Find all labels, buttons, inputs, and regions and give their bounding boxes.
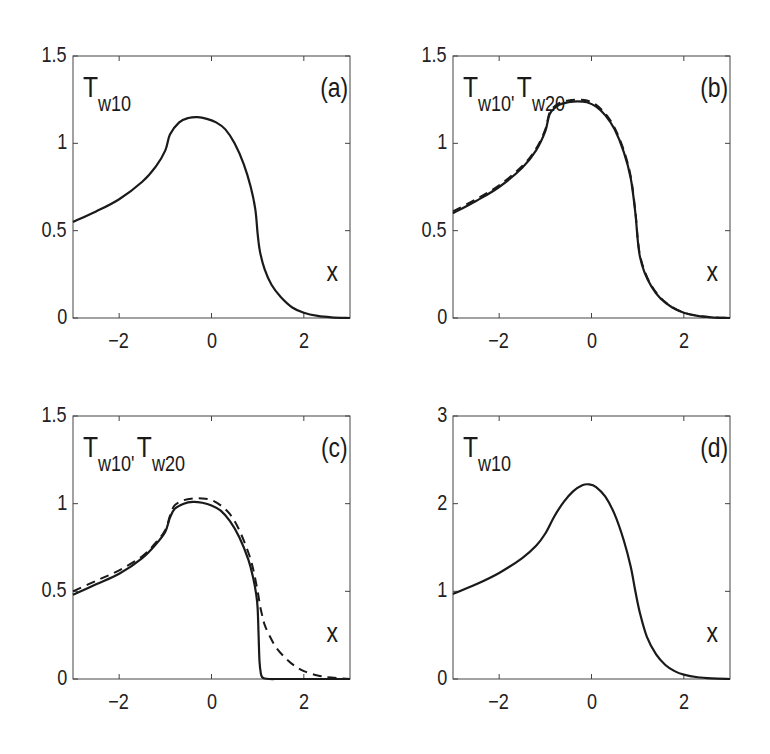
x-tick-label: 2 [679,691,689,713]
y-tick-label: 3 [437,404,447,426]
series-line-t-w10-solid [73,117,350,318]
panel-label: (c) [321,434,348,462]
x-axis-label: x [327,258,338,286]
panel-label: (d) [700,434,728,462]
x-tick-label: 2 [679,330,689,352]
y-tick-label: 0 [437,667,447,689]
x-tick-label: 0 [207,691,217,713]
y-axis-label: Tw10' Tw20 [83,432,185,462]
series-line-t-w20-dashed [453,100,730,318]
panel-a: (a) x −20200.511.5Tw10 [73,56,350,318]
y-tick-label: 1 [57,131,67,153]
y-tick-label: 0.5 [422,219,447,241]
panel-d: (d) x −2020123Tw10 [453,416,730,679]
y-tick-label: 1 [57,492,67,514]
x-tick-label: −2 [108,691,129,713]
panel-b: (b) x −20200.511.5Tw10' Tw20 [453,56,730,318]
y-axis-label: Tw10 [463,432,511,462]
y-tick-label: 0 [437,306,447,328]
x-tick-label: 0 [207,330,217,352]
x-axis-label: x [707,258,718,286]
x-axis-label: x [327,619,338,647]
y-tick-label: 1.5 [422,44,447,66]
y-tick-label: 0 [57,667,67,689]
y-tick-label: 2 [437,492,447,514]
panel-c: (c) x −20200.511.5Tw10' Tw20 [73,416,350,679]
series-line-t-w10-solid [453,101,730,318]
series-line-t-w20-dashed [73,498,350,679]
y-tick-label: 1.5 [42,404,67,426]
x-tick-label: 0 [587,330,597,352]
y-tick-label: 1 [437,131,447,153]
y-tick-label: 1 [437,579,447,601]
y-axis-label: Tw10 [83,72,131,102]
y-tick-label: 0.5 [42,219,67,241]
y-tick-label: 1.5 [42,44,67,66]
x-tick-label: 0 [587,691,597,713]
y-tick-label: 0 [57,306,67,328]
panel-label: (b) [700,74,728,102]
y-axis-label: Tw10' Tw20 [463,72,565,102]
x-tick-label: −2 [488,691,509,713]
x-tick-label: −2 [488,330,509,352]
panel-label: (a) [320,74,348,102]
series-line-t-w10-solid [453,484,730,679]
x-tick-label: 2 [299,330,309,352]
x-tick-label: 2 [299,691,309,713]
y-tick-label: 0.5 [42,579,67,601]
series-line-t-w10-solid [73,502,350,679]
x-axis-label: x [707,619,718,647]
x-tick-label: −2 [108,330,129,352]
